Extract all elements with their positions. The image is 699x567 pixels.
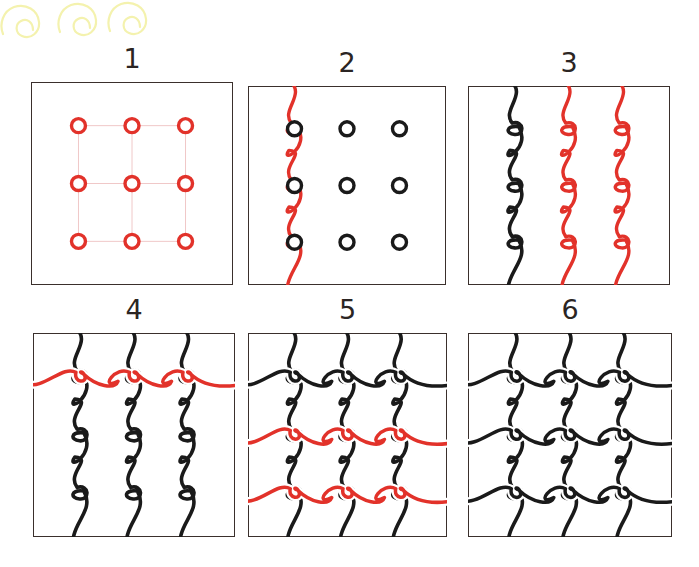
panel-number-label: 2 [248,46,446,80]
step-panel-5: 5 [248,333,447,537]
knot-drawing [248,86,446,285]
tutorial-sheet: 123456 [0,0,699,567]
panel-number-label: 4 [33,293,235,327]
panel-canvas [248,333,447,537]
panel-canvas [33,333,235,537]
vertical-strand [180,333,194,537]
panel-canvas [31,82,233,285]
step-panel-3: 3 [468,86,670,285]
panel-number-label: 1 [31,42,233,76]
vertical-strand [508,86,522,285]
vertical-strand [562,86,576,285]
panel-number-label: 5 [248,293,447,327]
step-panel-6: 6 [468,333,672,537]
knot-drawing [468,333,672,537]
panel-number-label: 6 [468,293,672,327]
vertical-strand [73,333,87,537]
panel-canvas [248,86,446,285]
knot-drawing [468,86,670,285]
step-panel-4: 4 [33,333,235,537]
panel-number-label: 3 [468,46,670,80]
knot-drawing [248,333,447,537]
step-panel-1: 1 [31,82,233,285]
knot-drawing [33,333,235,537]
panel-canvas [468,86,670,285]
vertical-strand [615,86,629,285]
step-panel-2: 2 [248,86,446,285]
knot-drawing [31,82,233,285]
vertical-strand [127,333,141,537]
panel-canvas [468,333,672,537]
dot-grid [288,122,407,249]
